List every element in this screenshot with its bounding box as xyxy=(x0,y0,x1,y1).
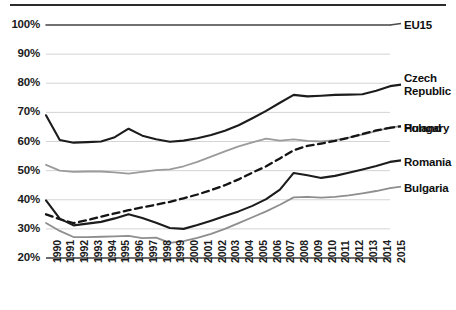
legend-label-eu15: EU15 xyxy=(404,19,432,32)
x-tick-2000: 2000 xyxy=(188,240,200,263)
y-tick-30: 30% xyxy=(0,222,40,234)
x-tick-2008: 2008 xyxy=(298,240,310,263)
series-paths-group xyxy=(46,25,390,243)
x-tick-2012: 2012 xyxy=(353,240,365,263)
line-chart: 100%90%80%70%60%50%40%30%20% 19901991199… xyxy=(0,0,456,310)
x-tick-2003: 2003 xyxy=(229,240,241,263)
x-tick-2007: 2007 xyxy=(284,240,296,263)
legend-stub-eu15 xyxy=(390,24,401,26)
x-tick-2006: 2006 xyxy=(271,240,283,263)
x-tick-2011: 2011 xyxy=(339,241,351,263)
legend-label-romania: Romania xyxy=(404,156,451,169)
y-tick-100: 100% xyxy=(0,18,40,30)
legend-stub-romania xyxy=(390,160,401,162)
x-tick-1998: 1998 xyxy=(161,240,173,263)
legend-label-hungary: Hungary xyxy=(404,122,449,135)
legend-line-stubs-group xyxy=(390,24,401,189)
x-tick-2014: 2014 xyxy=(381,240,393,263)
legend-label-czech-republic: CzechRepublic xyxy=(404,72,451,97)
x-tick-2009: 2009 xyxy=(312,240,324,263)
x-tick-1993: 1993 xyxy=(92,240,104,263)
y-tick-90: 90% xyxy=(0,47,40,59)
y-tick-60: 60% xyxy=(0,135,40,147)
series-line-czech-republic xyxy=(46,86,390,143)
legend-label-line: Czech xyxy=(404,72,451,85)
x-tick-2001: 2001 xyxy=(202,240,214,263)
y-tick-70: 70% xyxy=(0,105,40,117)
x-tick-2002: 2002 xyxy=(216,240,228,263)
x-tick-1991: 1991 xyxy=(64,240,76,263)
legend-stub-bulgaria xyxy=(390,187,401,189)
x-tick-2010: 2010 xyxy=(326,240,338,263)
x-tick-1990: 1990 xyxy=(51,240,63,263)
x-tick-1997: 1997 xyxy=(147,240,159,263)
x-tick-2015: 2015 xyxy=(395,240,407,263)
x-tick-1994: 1994 xyxy=(106,240,118,263)
series-line-poland xyxy=(46,128,390,174)
legend-stub-czech-republic xyxy=(390,85,401,87)
y-tick-80: 80% xyxy=(0,76,40,88)
x-tick-2005: 2005 xyxy=(257,240,269,263)
x-tick-1999: 1999 xyxy=(174,240,186,263)
y-tick-40: 40% xyxy=(0,193,40,205)
x-tick-2004: 2004 xyxy=(243,240,255,263)
x-tick-1996: 1996 xyxy=(133,240,145,263)
y-tick-20: 20% xyxy=(0,251,40,263)
legend-label-line: Republic xyxy=(404,85,451,98)
x-tick-1995: 1995 xyxy=(119,240,131,263)
x-tick-1992: 1992 xyxy=(78,240,90,263)
y-tick-50: 50% xyxy=(0,164,40,176)
plot-canvas xyxy=(0,0,456,310)
series-line-bulgaria xyxy=(46,188,390,243)
x-tick-2013: 2013 xyxy=(367,240,379,263)
legend-label-bulgaria: Bulgaria xyxy=(404,182,448,195)
